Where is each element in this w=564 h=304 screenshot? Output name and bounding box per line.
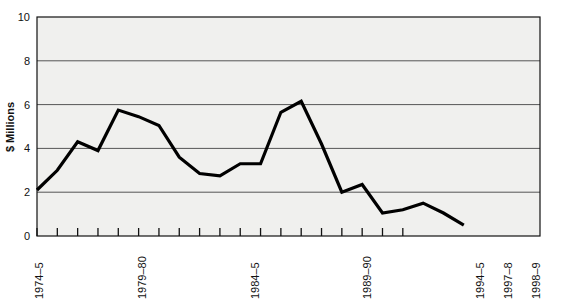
chart-container: 0246810 $ Millions 1974–51979–801984–519…: [0, 0, 564, 304]
y-axis-tick-label: 2: [24, 186, 30, 198]
x-axis-tick-label: 1998–9: [530, 262, 542, 299]
y-axis-tick-label: 4: [24, 142, 30, 154]
y-axis-tick-label: 6: [24, 99, 30, 111]
x-axis-tick-label: 1997–8: [502, 262, 514, 299]
y-axis-tick-label: 0: [24, 230, 30, 242]
x-axis-tick-label: 1989–90: [361, 256, 373, 299]
y-axis-title: $ Millions: [4, 102, 16, 152]
y-axis-tick-labels: 0246810: [18, 11, 30, 242]
x-axis-tick-label: 1974–5: [33, 262, 45, 299]
line-chart: 0246810 $ Millions 1974–51979–801984–519…: [0, 0, 564, 304]
y-axis-tick-label: 10: [18, 11, 30, 23]
x-axis-tick-labels: 1974–51979–801984–51989–901994–51997–819…: [33, 256, 542, 299]
y-axis-tick-label: 8: [24, 55, 30, 67]
x-axis-tick-label: 1994–5: [474, 262, 486, 299]
x-axis-tick-label: 1979–80: [136, 256, 148, 299]
plot-area-background: [37, 17, 540, 236]
x-axis-tick-label: 1984–5: [249, 262, 261, 299]
